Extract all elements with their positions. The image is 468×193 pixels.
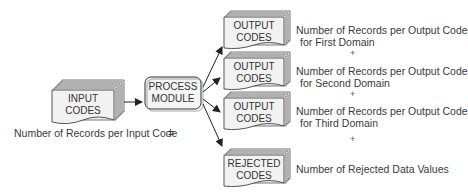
process-line2: MODULE bbox=[145, 93, 201, 105]
output-1-label: OUTPUT CODES bbox=[224, 20, 284, 44]
input-records-label: Number of Records per Input Code bbox=[14, 127, 177, 139]
rejected-line2: CODES bbox=[224, 170, 284, 182]
rejected-line1: REJECTED bbox=[224, 158, 284, 170]
process-module-label: PROCESS MODULE bbox=[145, 81, 201, 105]
output-3-line2: CODES bbox=[224, 113, 284, 125]
input-codes-label: INPUT CODES bbox=[52, 93, 114, 117]
rejected-desc: Number of Rejected Data Values bbox=[296, 163, 449, 175]
arrow-to-output-2 bbox=[203, 78, 220, 92]
process-line1: PROCESS bbox=[145, 81, 201, 93]
plus-sign-3: + bbox=[350, 134, 355, 144]
plus-sign-2: + bbox=[350, 89, 355, 99]
output-1-line1: OUTPUT bbox=[224, 20, 284, 32]
output-2-desc: Number of Records per Output Code for Se… bbox=[296, 65, 468, 89]
arrow-to-output-1 bbox=[203, 47, 222, 87]
output-2-label: OUTPUT CODES bbox=[224, 61, 284, 85]
output-1-desc: Number of Records per Output Code for Fi… bbox=[296, 24, 468, 48]
output-1-desc-line1: Number of Records per Output Code bbox=[296, 24, 468, 36]
output-3-desc: Number of Records per Output Code for Th… bbox=[296, 105, 468, 129]
output-2-desc-line1: Number of Records per Output Code bbox=[296, 65, 468, 77]
output-2-line1: OUTPUT bbox=[224, 61, 284, 73]
output-3-desc-line1: Number of Records per Output Code bbox=[296, 105, 468, 117]
output-2-line2: CODES bbox=[224, 73, 284, 85]
input-codes-line2: CODES bbox=[52, 105, 114, 117]
equals-sign: = bbox=[168, 127, 174, 139]
arrow-to-rejected bbox=[203, 104, 222, 146]
output-2-desc-line2: for Second Domain bbox=[296, 77, 468, 89]
output-3-label: OUTPUT CODES bbox=[224, 101, 284, 125]
output-3-line1: OUTPUT bbox=[224, 101, 284, 113]
rejected-label: REJECTED CODES bbox=[224, 158, 284, 182]
plus-sign-1: + bbox=[350, 48, 355, 58]
output-1-desc-line2: for First Domain bbox=[296, 36, 468, 48]
output-3-desc-line2: for Third Domain bbox=[296, 117, 468, 129]
input-codes-line1: INPUT bbox=[52, 93, 114, 105]
output-1-line2: CODES bbox=[224, 32, 284, 44]
